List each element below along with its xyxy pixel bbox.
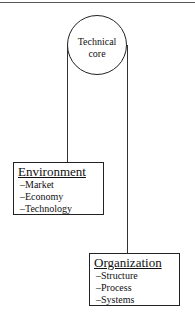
organization-item-process: –Process bbox=[94, 282, 175, 294]
organization-title: Organization bbox=[94, 255, 175, 270]
organization-box: Organization –Structure –Process –System… bbox=[89, 253, 180, 306]
environment-item-economy: –Economy bbox=[18, 191, 99, 203]
environment-item-technology: –Technology bbox=[18, 203, 99, 215]
connector-core-to-environment bbox=[67, 45, 68, 163]
core-label-line1: Technical bbox=[78, 36, 117, 47]
organization-item-structure: –Structure bbox=[94, 270, 175, 282]
organization-item-systems: –Systems bbox=[94, 294, 175, 306]
top-border-line bbox=[0, 2, 195, 3]
environment-box: Environment –Market –Economy –Technology bbox=[13, 162, 104, 215]
connector-core-to-organization bbox=[127, 45, 128, 254]
core-label-line2: core bbox=[88, 48, 105, 59]
environment-item-market: –Market bbox=[18, 179, 99, 191]
environment-title: Environment bbox=[18, 164, 99, 179]
core-label: Technical core bbox=[68, 36, 126, 60]
technical-core-node: Technical core bbox=[67, 15, 127, 75]
